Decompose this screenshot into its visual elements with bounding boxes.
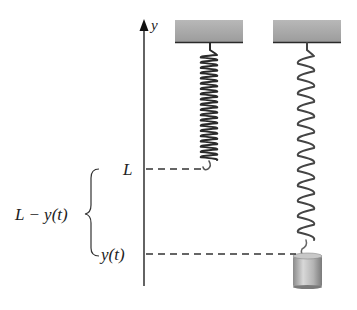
right-ceiling [273, 20, 341, 43]
left-ceiling [175, 20, 243, 43]
axis-label-y: y [149, 17, 158, 33]
right-spring [298, 43, 315, 256]
y-axis: y [140, 17, 159, 286]
axis-arrow-icon [140, 19, 149, 31]
label-L-minus-yt: L − y(t) [14, 205, 68, 224]
label-yt: y(t) [99, 245, 125, 264]
spring-mass-diagram: y L y(t) L − y(t) [0, 0, 357, 310]
brace [85, 169, 99, 256]
mass [293, 253, 322, 289]
label-L: L [122, 160, 132, 179]
left-spring [201, 43, 218, 170]
